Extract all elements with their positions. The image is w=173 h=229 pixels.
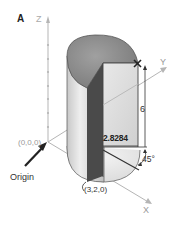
point-label: (3,2,0) — [84, 186, 107, 194]
origin-label: Origin — [10, 173, 34, 182]
origin-coordinate: (0,0,0) — [18, 139, 41, 147]
y-axis-label: Y — [160, 58, 166, 67]
z-axis-label: Z — [36, 15, 42, 24]
angle-label: 45° — [142, 155, 155, 164]
panel-label: A — [17, 14, 24, 24]
z-axis — [46, 16, 50, 142]
width-label: 2.8284 — [103, 134, 128, 143]
x-axis-label: X — [143, 206, 149, 215]
height-label: 6 — [140, 105, 145, 114]
cylinder-diagram: A Z Y X (0,0,0) Origin (3,2,0) 6 2.8284 … — [0, 0, 173, 229]
